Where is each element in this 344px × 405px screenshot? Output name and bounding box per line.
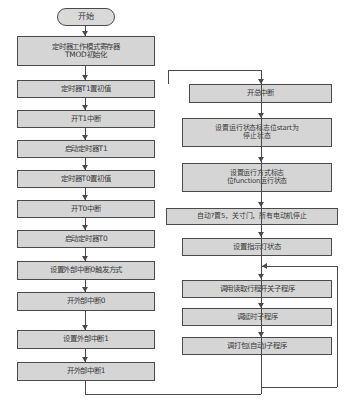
node-enable-ext-int1-label: 开外部中断1 (20, 367, 152, 375)
node-set-function-flag: 设置运行方式标志 位function运行状态 (182, 163, 332, 192)
node-tmod-init-label: 定时器工作模式寄存器 TMOD初始化 (20, 43, 152, 60)
connector-wrap-top-across (168, 70, 262, 71)
node-start-timer-t0: 启动定时器T0 (17, 230, 155, 248)
connector-loopback-across-top (262, 266, 337, 267)
node-set-function-flag-label: 设置运行方式标志 位function运行状态 (185, 170, 329, 185)
node-auto-mode-motors-stop: 自动?置5，关寸门，所有电动机停止 (166, 208, 338, 225)
node-tmod-init: 定时器工作模式寄存器 TMOD初始化 (17, 36, 155, 66)
node-enable-t1-interrupt: 开T1中断 (17, 110, 155, 128)
node-start-timer-t0-label: 启动定时器T0 (20, 235, 152, 243)
connector-loopback-drop-to-node (261, 266, 262, 280)
node-call-delay-subroutine-label: 调延时子程序 (185, 313, 329, 321)
arrowhead-delay-to-packing (258, 332, 264, 337)
arrowhead-loopback-into-limitswitch (262, 263, 267, 269)
connector-leftcol-exit-down (85, 381, 86, 394)
node-enable-ext-int0: 开外部中断0 (17, 292, 155, 311)
arrowhead-setext1-to-enext1 (82, 357, 88, 362)
node-enable-t1-interrupt-label: 开T1中断 (20, 115, 152, 123)
arrowhead-extint0mode-to-enext0 (82, 287, 88, 292)
node-enable-t0-interrupt: 开T0中断 (17, 200, 155, 218)
arrowhead-startt0-to-extint0mode (82, 256, 88, 261)
node-set-start-flag-stop-label: 设置运行状态标志位start为 停止状态 (185, 125, 329, 140)
arrowhead-tmod-to-t1 (82, 75, 88, 80)
node-call-limit-switch-subroutine-label: 调用读取行程开关子程序 (185, 285, 329, 293)
node-set-indicator-light: 设置指示灯状态 (182, 238, 332, 256)
node-ext-int0-trigger-mode-label: 设置外部中断0触发方式 (20, 266, 152, 274)
arrowhead-t0-to-ent0 (82, 195, 88, 200)
node-t1-initial-value: 定时器T1置初值 (17, 80, 155, 98)
connector-loopback-riser (337, 266, 338, 387)
node-set-ext-int1-label: 设置外部中断1 (20, 335, 152, 343)
arrowhead-wrap-into-global-interrupt (258, 79, 264, 84)
node-t1-initial-value-label: 定时器T1置初值 (20, 85, 152, 93)
node-set-ext-int1: 设置外部中断1 (17, 330, 155, 349)
arrowhead-startflag-to-function (258, 157, 264, 162)
arrowhead-ent0-to-startt0 (82, 225, 88, 230)
arrowhead-auto-to-indicator (258, 232, 264, 237)
flowchart-canvas: 开始 定时器工作模式寄存器 TMOD初始化 定时器T1置初值 开T1中断 启动定… (0, 0, 344, 405)
node-set-indicator-light-label: 设置指示灯状态 (185, 243, 329, 251)
arrowhead-global-to-startflag (258, 113, 264, 118)
node-enable-ext-int0-label: 开外部中断0 (20, 297, 152, 305)
arrowhead-ent1-to-startt1 (82, 135, 88, 140)
arrowhead-startt1-to-t0 (82, 165, 88, 170)
node-call-delay-subroutine: 调延时子程序 (182, 308, 332, 326)
node-call-packing-subroutine: 调打包(自动)子程序 (182, 337, 332, 355)
arrowhead-enext0-to-setext1 (82, 325, 88, 330)
node-enable-t0-interrupt-label: 开T0中断 (20, 205, 152, 213)
node-start-timer-t1-label: 启动定时器T1 (20, 145, 152, 153)
arrowhead-limitswitch-to-delay (258, 303, 264, 308)
node-start-label: 开始 (60, 12, 112, 21)
node-ext-int0-trigger-mode: 设置外部中断0触发方式 (17, 261, 155, 280)
node-enable-ext-int1: 开外部中断1 (17, 362, 155, 381)
node-auto-mode-motors-stop-label: 自动?置5，关寸门，所有电动机停止 (169, 213, 335, 221)
connector-wrap-into-right-col (168, 70, 169, 84)
node-set-start-flag-stop: 设置运行状态标志位start为 停止状态 (182, 118, 332, 147)
node-start: 开始 (57, 8, 115, 26)
node-start-timer-t1: 启动定时器T1 (17, 140, 155, 158)
arrowhead-function-to-auto (258, 202, 264, 207)
arrowhead-t1-to-ent1 (82, 105, 88, 110)
node-t0-initial-value: 定时器T0置初值 (17, 170, 155, 188)
node-t0-initial-value-label: 定时器T0置初值 (20, 175, 152, 183)
connector-leftcol-exit-across (85, 394, 261, 395)
connector-loopback-down (261, 355, 262, 387)
node-call-packing-subroutine-label: 调打包(自动)子程序 (185, 342, 329, 350)
connector-loopback-across-bottom (261, 387, 337, 388)
arrowhead-start-to-tmod (82, 31, 88, 36)
node-call-limit-switch-subroutine: 调用读取行程开关子程序 (182, 280, 332, 298)
